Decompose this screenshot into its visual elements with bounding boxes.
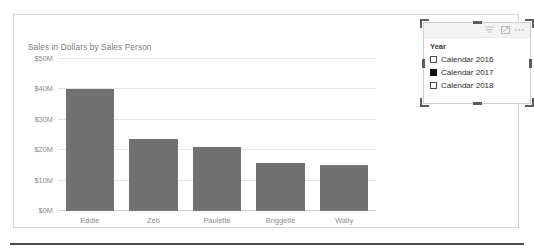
slicer-item-label: Calendar 2017 <box>441 68 493 77</box>
focus-mode-icon[interactable] <box>501 26 510 34</box>
year-slicer-visual[interactable]: Year Calendar 2016Calendar 2017Calendar … <box>423 22 531 104</box>
column-chart-visual[interactable]: Sales in Dollars by Sales Person $50M$40… <box>14 15 394 227</box>
slicer-item-label: Calendar 2018 <box>441 81 493 90</box>
resize-handle-top-right[interactable] <box>525 19 534 28</box>
x-axis-tick-label: Paulette <box>185 216 249 225</box>
bar-slot: Paulette <box>185 59 249 211</box>
resize-handle-left[interactable] <box>422 59 425 68</box>
checkbox-icon[interactable] <box>430 69 437 76</box>
bar-briggette[interactable] <box>256 163 304 211</box>
slicer-item[interactable]: Calendar 2018 <box>430 79 524 92</box>
slicer-header <box>424 23 530 38</box>
page-divider <box>10 243 524 245</box>
more-options-icon[interactable] <box>514 26 525 34</box>
bar-slot: Eddie <box>58 59 122 211</box>
slicer-item-list: Calendar 2016Calendar 2017Calendar 2018 <box>430 53 524 92</box>
resize-handle-bottom-right[interactable] <box>525 98 534 107</box>
bar-slot: Zeb <box>122 59 186 211</box>
chart-bars: EddieZebPauletteBriggetteWally <box>58 59 376 211</box>
x-axis-tick-label: Briggette <box>249 216 313 225</box>
x-axis-tick-label: Zeb <box>122 216 186 225</box>
resize-handle-bottom-left[interactable] <box>420 98 429 107</box>
report-canvas: Sales in Dollars by Sales Person $50M$40… <box>13 14 519 228</box>
checkbox-icon[interactable] <box>430 82 437 89</box>
x-axis-tick-label: Eddie <box>58 216 122 225</box>
y-axis-tick-label: $20M <box>35 145 54 154</box>
y-axis-tick-label: $30M <box>35 114 54 123</box>
bar-paulette[interactable] <box>193 147 241 211</box>
y-axis-tick-label: $40M <box>35 84 54 93</box>
y-axis-tick-label: $0M <box>39 206 53 215</box>
bar-eddie[interactable] <box>66 89 114 211</box>
y-axis-tick-label: $10M <box>35 175 54 184</box>
slicer-item-label: Calendar 2016 <box>441 55 493 64</box>
resize-handle-top-left[interactable] <box>420 19 429 28</box>
x-axis-tick-label: Wally <box>312 216 376 225</box>
slicer-item[interactable]: Calendar 2017 <box>430 66 524 79</box>
resize-handle-bottom[interactable] <box>473 102 482 105</box>
resize-handle-right[interactable] <box>529 59 532 68</box>
bar-slot: Briggette <box>249 59 313 211</box>
resize-handle-top[interactable] <box>473 21 482 24</box>
slicer-body: Year Calendar 2016Calendar 2017Calendar … <box>424 38 530 92</box>
chart-plot-area: $50M$40M$30M$20M$10M$0M EddieZebPaulette… <box>58 59 376 211</box>
filter-icon[interactable] <box>485 26 494 34</box>
slicer-title: Year <box>430 42 524 51</box>
chart-title: Sales in Dollars by Sales Person <box>28 43 152 52</box>
checkbox-icon[interactable] <box>430 56 437 63</box>
bar-zeb[interactable] <box>129 139 177 211</box>
y-axis-tick-label: $50M <box>35 54 54 63</box>
bar-slot: Wally <box>312 59 376 211</box>
bar-wally[interactable] <box>320 165 368 211</box>
slicer-item[interactable]: Calendar 2016 <box>430 53 524 66</box>
